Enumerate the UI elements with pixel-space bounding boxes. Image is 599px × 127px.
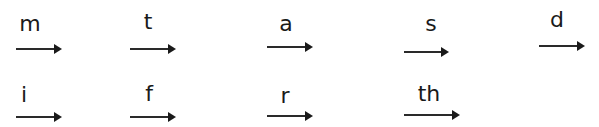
sound-letter: s (419, 13, 443, 35)
right-arrow-icon (267, 115, 311, 117)
right-arrow-icon (404, 114, 458, 116)
right-arrow-icon (16, 48, 60, 50)
sound-letter: t (136, 11, 160, 33)
sound-letter: m (16, 13, 44, 35)
right-arrow-icon (539, 45, 583, 47)
sound-letter: a (274, 13, 298, 35)
right-arrow-icon (130, 116, 174, 118)
sound-letter: i (12, 84, 36, 106)
right-arrow-icon (130, 48, 174, 50)
sound-letter: d (545, 9, 569, 31)
sound-letter: f (137, 83, 161, 105)
right-arrow-icon (267, 46, 311, 48)
sound-letter: th (414, 83, 444, 105)
right-arrow-icon (404, 51, 447, 53)
right-arrow-icon (16, 116, 60, 118)
sound-letter: r (273, 85, 297, 107)
